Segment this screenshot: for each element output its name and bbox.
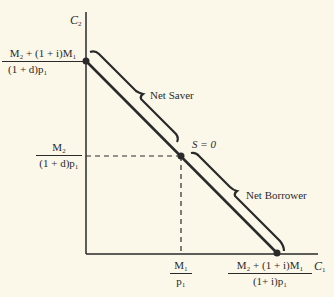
x-axis-label: C1 <box>314 260 326 274</box>
fraction-denominator: (1 + d)p₁ <box>2 62 84 75</box>
label-net-borrower: Net Borrower <box>246 190 307 201</box>
fraction-numerator: M₂ <box>36 142 82 156</box>
x-tick-endowment-c1: M₁ p₁ <box>170 260 192 287</box>
x-tick-c1-intercept: M₂ + (1 + i)M₁ (1+ i)p₁ <box>228 260 312 287</box>
fraction-numerator: M₁ <box>170 260 192 274</box>
point-c1-intercept <box>274 250 281 257</box>
point-endowment <box>178 153 185 160</box>
fraction-denominator: (1 + d)p₁ <box>36 156 82 169</box>
y-tick-endowment-c2: M₂ (1 + d)p₁ <box>36 142 82 169</box>
x-axis-subscript: 1 <box>322 266 326 274</box>
y-axis-subscript: 2 <box>78 20 82 28</box>
fraction-numerator: M₂ + (1 + i)M₁ <box>228 260 312 274</box>
label-s-zero: S = 0 <box>192 139 216 150</box>
fraction-denominator: (1+ i)p₁ <box>228 274 312 287</box>
x-axis-letter: C <box>314 259 322 273</box>
fraction-numerator: M₂ + (1 + i)M₁ <box>2 48 84 62</box>
y-axis-letter: C <box>70 13 78 27</box>
s-zero-text: S = 0 <box>192 138 216 150</box>
fraction-denominator: p₁ <box>170 274 192 287</box>
y-axis-label: C2 <box>70 14 82 28</box>
y-tick-c2-intercept: M₂ + (1 + i)M₁ (1 + d)p₁ <box>2 48 84 75</box>
brace-net-borrower <box>191 153 284 251</box>
label-net-saver: Net Saver <box>150 90 194 101</box>
